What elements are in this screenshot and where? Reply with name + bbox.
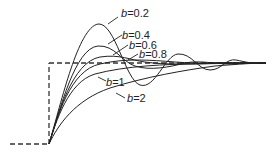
label-b-0.2: b=0.2 <box>121 8 149 19</box>
curve-b-0.8 <box>49 60 266 144</box>
step-response-figure <box>0 0 279 156</box>
label-b-0.8: b=0.8 <box>139 49 167 60</box>
label-b-2: b=2 <box>127 93 146 104</box>
label-b-1: b=1 <box>106 77 125 88</box>
curve-b-0.2 <box>49 24 266 144</box>
curve-b-0.6 <box>49 56 266 144</box>
leader-b-0.2 <box>108 17 118 24</box>
leader-b-1 <box>98 77 106 81</box>
leader-b-2 <box>116 93 125 98</box>
